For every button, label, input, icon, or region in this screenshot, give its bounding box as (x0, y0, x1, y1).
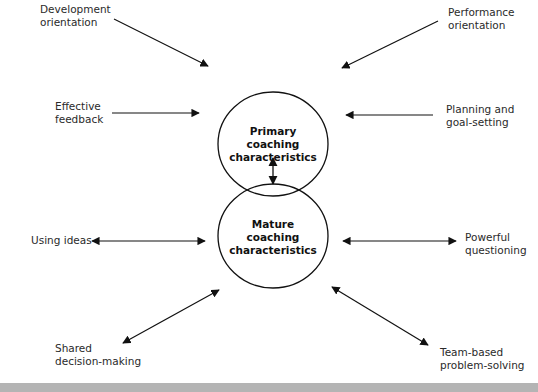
label-planning-goal-setting: Planning and goal-setting (446, 103, 514, 129)
diagram-canvas (0, 0, 538, 392)
primary-line-1: Primary (218, 125, 328, 138)
mature-line-3: characteristics (218, 244, 328, 257)
label-performance-orientation: Performance orientation (448, 6, 515, 32)
label-team-based-problem-solving: Team-based problem-solving (440, 346, 525, 372)
mature-line-2: coaching (218, 231, 328, 244)
primary-node-label: Primary coaching characteristics (218, 125, 328, 164)
footer-bar (0, 383, 538, 392)
mature-line-1: Mature (218, 218, 328, 231)
arrow-development (114, 19, 208, 66)
label-effective-feedback: Effective feedback (55, 100, 103, 126)
primary-line-2: coaching (218, 138, 328, 151)
label-powerful-questioning: Powerful questioning (465, 231, 527, 257)
mature-node-label: Mature coaching characteristics (218, 218, 328, 257)
primary-line-3: characteristics (218, 151, 328, 164)
arrow-performance (342, 21, 438, 68)
label-development-orientation: Development orientation (40, 3, 111, 29)
arrow-shared-decision (123, 290, 219, 343)
label-using-ideas: Using ideas (31, 234, 92, 247)
arrow-team-problem (332, 287, 428, 345)
label-shared-decision-making: Shared decision-making (55, 342, 141, 368)
